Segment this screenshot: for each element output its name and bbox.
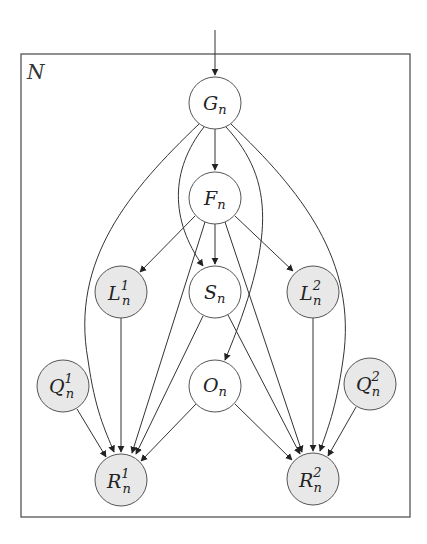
edge-o-r1 <box>141 404 196 461</box>
node-f: Fn <box>189 172 241 224</box>
edge-f-l2 <box>235 216 293 271</box>
edge-f-r2 <box>225 222 302 452</box>
svg-text:R1n: R1n <box>106 466 131 496</box>
node-o: On <box>189 360 241 412</box>
plate-label: N <box>26 60 46 84</box>
svg-text:Q1n: Q1n <box>49 371 74 401</box>
edge-q1-r1 <box>77 409 106 457</box>
node-g: Gn <box>189 77 241 129</box>
node-q2: Q2n <box>344 358 396 410</box>
node-s: Sn <box>189 266 241 318</box>
svg-text:L1n: L1n <box>107 278 130 308</box>
svg-text:Q2n: Q2n <box>356 369 380 399</box>
edge-o-r2 <box>235 404 292 460</box>
graphical-model-diagram: N Gn Fn L1n Sn L2n <box>0 0 427 544</box>
node-r2: R2n <box>287 453 339 505</box>
node-l2: L2n <box>287 266 339 318</box>
node-l1: L1n <box>95 266 147 318</box>
node-q1: Q1n <box>37 360 89 412</box>
svg-text:L2n: L2n <box>299 278 321 308</box>
edge-f-r1 <box>132 222 205 453</box>
node-r1: R1n <box>95 454 147 506</box>
edge-f-l1 <box>140 216 195 272</box>
edge-g-o <box>225 127 263 360</box>
svg-text:R2n: R2n <box>298 465 322 495</box>
